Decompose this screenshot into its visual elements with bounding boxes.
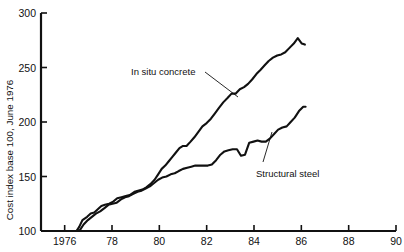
leader-line-in-situ-concrete xyxy=(205,72,238,97)
chart-figure: 100150200250300 197678808284868890 Cost … xyxy=(0,0,404,252)
y-tick-label: 200 xyxy=(18,116,36,128)
y-tick-label: 100 xyxy=(18,225,36,237)
x-tick-label: 84 xyxy=(248,235,260,247)
leader-line-structural-steel xyxy=(263,132,272,162)
x-tick-label: 88 xyxy=(343,235,355,247)
cost-index-line-chart: 100150200250300 197678808284868890 Cost … xyxy=(0,0,404,252)
x-tick-label: 82 xyxy=(201,235,213,247)
y-tick-label: 150 xyxy=(18,171,36,183)
y-axis-title: Cost index base 100, June 1976 xyxy=(4,79,15,220)
y-axis-tick-labels: 100150200250300 xyxy=(18,7,36,237)
x-tick-label: 1976 xyxy=(53,235,77,247)
y-tick-label: 300 xyxy=(18,7,36,19)
x-tick-label: 78 xyxy=(106,235,118,247)
x-tick-label: 90 xyxy=(390,235,402,247)
x-tick-label: 86 xyxy=(295,235,307,247)
annotation-structural-steel: Structural steel xyxy=(256,168,319,179)
annotation-in-situ-concrete: In situ concrete xyxy=(131,66,195,77)
x-axis-tick-labels: 197678808284868890 xyxy=(53,235,402,247)
x-tick-label: 80 xyxy=(153,235,165,247)
y-tick-label: 250 xyxy=(18,62,36,74)
